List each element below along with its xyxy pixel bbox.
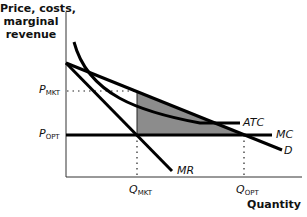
d-label: D (284, 144, 292, 157)
mr-label: MR (177, 164, 194, 177)
y-axis-label: Price, costs, marginal revenue (0, 2, 62, 41)
demand-curve (66, 63, 282, 150)
mc-label: MC (276, 128, 293, 141)
x-axis-label: Quantity (247, 198, 301, 211)
atc-label: ATC (243, 116, 264, 129)
p-mkt-label: PMKT (39, 83, 60, 97)
q-opt-label: QOPT (236, 183, 259, 197)
y-axis-label-line1: Price, costs, (0, 2, 62, 15)
y-axis-label-line2: marginal (0, 15, 62, 28)
y-axis-label-line3: revenue (0, 28, 62, 41)
p-opt-label: POPT (39, 127, 60, 141)
q-mkt-label: QMKT (129, 183, 152, 197)
